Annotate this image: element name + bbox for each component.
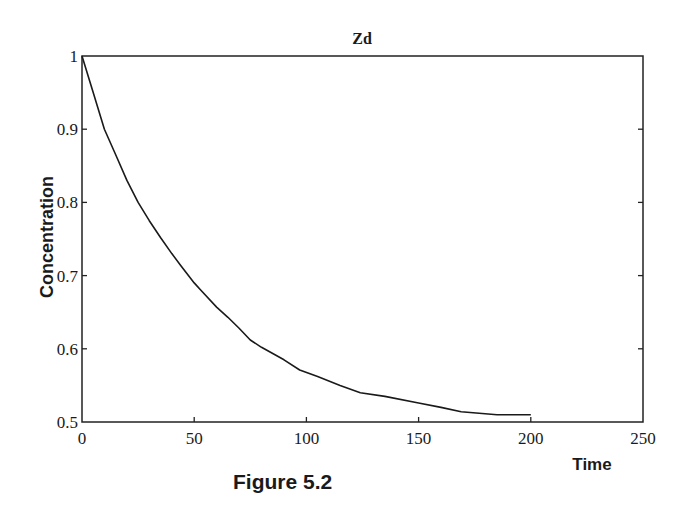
y-tick-label: 0.6 [57,340,78,359]
y-tick-label: 0.5 [57,413,78,432]
concentration-curve [82,56,531,415]
x-tick-label: 0 [78,429,87,448]
x-tick-label: 200 [518,429,544,448]
x-tick-label: 150 [406,429,432,448]
plot-frame [82,56,643,422]
chart-title: Zd [352,30,372,47]
x-tick-label: 250 [630,429,656,448]
x-tick-label: 100 [294,429,320,448]
line-chart: Zd 050100150200250 0.50.60.70.80.91 Time… [0,0,694,522]
y-axis-ticks: 0.50.60.70.80.91 [57,47,643,432]
y-tick-label: 0.7 [57,267,79,286]
figure-caption: Figure 5.2 [233,470,332,494]
x-axis-label: Time [572,455,611,474]
y-axis-label: Concentration [37,176,57,298]
x-tick-label: 50 [186,429,203,448]
y-tick-label: 0.9 [57,120,78,139]
y-tick-label: 0.8 [57,193,78,212]
y-tick-label: 1 [70,47,79,66]
